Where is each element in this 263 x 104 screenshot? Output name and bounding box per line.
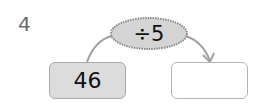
answer-input-box[interactable]	[171, 62, 248, 99]
operation-label: ÷5	[110, 17, 188, 50]
connector-line	[87, 36, 112, 62]
input-box: 46	[49, 62, 126, 99]
